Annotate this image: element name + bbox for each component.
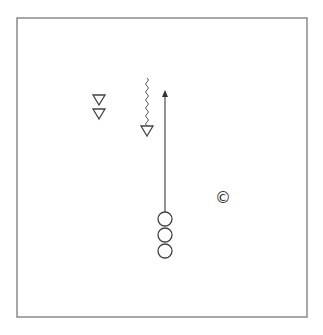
field-frame [17,18,307,317]
defender-triangle-icon [141,126,153,136]
attacker-circle-icon [158,212,172,226]
defender-triangle-icon [93,109,105,119]
defender-triangle-icon [93,95,105,105]
attacker-circle-icon [158,228,172,242]
attacker-circle-icon [158,244,172,258]
dribble-zigzag-line [146,78,149,126]
drill-diagram: © [0,0,323,335]
coach-marker: © [215,188,231,207]
arrow-head-icon [162,90,168,97]
